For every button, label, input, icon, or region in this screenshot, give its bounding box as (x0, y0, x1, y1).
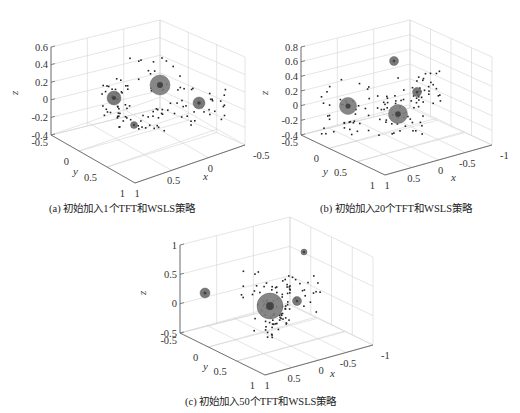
data-point (368, 115, 370, 117)
data-point (273, 324, 275, 326)
data-point (211, 99, 213, 101)
data-point (292, 277, 294, 279)
data-point (182, 106, 184, 108)
data-point (140, 120, 142, 122)
data-point (276, 292, 278, 294)
data-point (191, 89, 193, 91)
data-point (117, 106, 119, 108)
x-tick-label: 0.5 (287, 373, 300, 384)
data-point (359, 123, 361, 125)
data-point (295, 279, 297, 281)
data-point (418, 106, 420, 108)
data-point (224, 115, 226, 117)
data-point (400, 100, 402, 102)
data-point (142, 115, 144, 117)
data-point (436, 73, 438, 75)
data-point (271, 327, 273, 329)
data-point (163, 130, 165, 132)
data-point (287, 293, 289, 295)
z-tick-label: 0.5 (164, 269, 177, 280)
data-point (327, 115, 329, 117)
z-axis-label: z (8, 90, 20, 96)
plot-c: 10.50-0.5-0.500.51-1-0.500.51xyz (136, 217, 390, 391)
data-point (420, 122, 422, 124)
data-point (203, 111, 205, 113)
data-point (281, 296, 283, 298)
data-point (241, 294, 243, 296)
data-point (225, 89, 227, 91)
data-point (141, 126, 143, 128)
data-point (220, 100, 222, 102)
data-point (397, 77, 399, 79)
data-point (138, 128, 140, 130)
data-point (393, 132, 395, 134)
data-point (317, 282, 319, 284)
data-point (210, 99, 212, 101)
data-point (289, 308, 291, 310)
data-point (126, 117, 128, 119)
data-point (387, 97, 389, 99)
data-point (422, 115, 424, 117)
data-point (354, 120, 356, 122)
data-point (329, 119, 331, 121)
data-point (415, 130, 417, 132)
data-point (412, 87, 414, 89)
data-point (351, 134, 353, 136)
z-tick-label: 0.2 (35, 77, 48, 88)
data-point (377, 107, 379, 109)
data-point (190, 124, 192, 126)
data-point (287, 304, 289, 306)
data-point (316, 311, 318, 313)
data-point (254, 273, 256, 275)
y-axis-label: y (202, 360, 208, 372)
data-point (162, 109, 164, 111)
data-point (285, 317, 287, 319)
data-point (102, 105, 104, 107)
data-point (183, 88, 185, 90)
data-point (118, 108, 120, 110)
data-point (289, 285, 291, 287)
data-point (385, 121, 387, 123)
data-point (208, 109, 210, 111)
data-point (181, 116, 183, 118)
data-point (224, 94, 226, 96)
data-point (243, 271, 245, 273)
data-point (170, 103, 172, 105)
data-point (378, 134, 380, 136)
data-point (313, 292, 315, 294)
data-point (323, 102, 325, 104)
data-point (101, 93, 103, 95)
y-axis-label: y (72, 165, 78, 177)
data-point (403, 99, 405, 101)
x-axis-label: x (202, 170, 208, 182)
data-point (367, 88, 369, 90)
data-point (265, 321, 267, 323)
y-tick-label: 0.5 (334, 167, 347, 178)
data-point (303, 305, 305, 307)
data-point (272, 319, 274, 321)
data-point (432, 84, 434, 86)
data-point (267, 332, 269, 334)
z-tick-label: 0.6 (285, 56, 298, 67)
data-point (110, 112, 112, 114)
z-tick-label: -0.2 (281, 115, 298, 126)
data-point (353, 122, 355, 124)
data-point (267, 336, 269, 338)
data-point (174, 113, 176, 115)
x-tick-label: -0.5 (253, 150, 270, 161)
data-point (158, 117, 160, 119)
data-point (329, 104, 331, 106)
data-point (193, 111, 195, 113)
caption-c: (c) 初始加入50个TFT和WSLS策略 (185, 393, 336, 408)
data-point (423, 78, 425, 80)
data-point (368, 98, 370, 100)
data-point (152, 115, 154, 117)
data-point (358, 105, 360, 107)
y-tick-label: 0.5 (84, 172, 97, 183)
data-point (282, 294, 284, 296)
data-point (279, 319, 281, 321)
plot-b: 0.80.60.40.20-0.2-0.4-0.500.51-1-0.500.5… (258, 20, 509, 191)
cluster-core (266, 302, 274, 310)
data-point (421, 133, 423, 135)
cluster-core (416, 91, 419, 94)
